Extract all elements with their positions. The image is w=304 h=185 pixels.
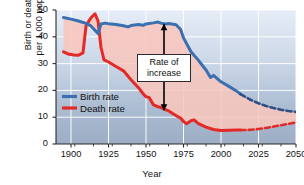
legend-label-death-rate: Death rate — [80, 103, 125, 114]
x-tick-label: 2000 — [204, 149, 238, 159]
y-tick-label: 30 — [26, 58, 48, 68]
x-tick-label: 1900 — [54, 149, 88, 159]
x-tick-label: 1975 — [167, 149, 201, 159]
x-tick-label: 2050 — [279, 149, 304, 159]
x-axis-title: Year — [0, 168, 304, 179]
y-tick-label: 40 — [26, 31, 48, 41]
x-tick-label: 1950 — [129, 149, 163, 159]
x-tick-label: 2025 — [242, 149, 276, 159]
legend-label-birth-rate: Birth rate — [80, 91, 119, 102]
y-tick-label: 0 — [26, 138, 48, 148]
y-tick-label: 10 — [26, 111, 48, 121]
annotation-line1: Rate of — [142, 57, 186, 68]
y-tick-label: 20 — [26, 84, 48, 94]
demographic-transition-chart: Birth or death rate per 1,000 population… — [0, 0, 304, 185]
rate-of-increase-annotation: Rate of increase — [137, 54, 191, 82]
annotation-line2: increase — [142, 68, 186, 79]
y-tick-label: 50 — [26, 4, 48, 14]
x-tick-label: 1925 — [92, 149, 126, 159]
